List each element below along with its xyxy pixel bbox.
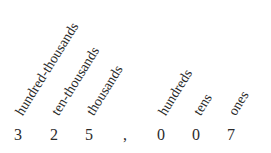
place-label-tens: tens (191, 91, 215, 118)
thousands-separator-comma: , (118, 127, 132, 143)
digit-hundred-thousands: 3 (11, 127, 25, 143)
place-label-ones: ones (226, 89, 251, 118)
digit-thousands: 5 (82, 127, 96, 143)
digit-ten-thousands: 2 (47, 127, 61, 143)
digit-ones: 7 (224, 127, 238, 143)
place-label-thousands: thousands (84, 63, 126, 118)
place-label-hundreds: hundreds (156, 67, 195, 118)
digit-tens: 0 (189, 127, 203, 143)
place-label-hundred-thousands: hundred-thousands (13, 20, 81, 118)
digit-hundreds: 0 (154, 127, 168, 143)
